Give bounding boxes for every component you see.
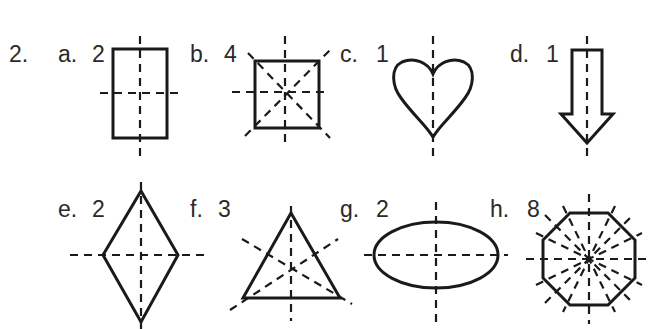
- triangle-figure: [230, 206, 352, 321]
- heart-figure: [394, 36, 473, 156]
- down-arrow-figure: [561, 36, 613, 156]
- square-figure: [232, 36, 330, 142]
- rectangle-figure: [100, 36, 181, 156]
- octagon-figure: [526, 194, 652, 324]
- figures-canvas: [0, 0, 655, 329]
- ellipse-figure: [364, 202, 508, 322]
- rhombus-figure: [70, 182, 208, 329]
